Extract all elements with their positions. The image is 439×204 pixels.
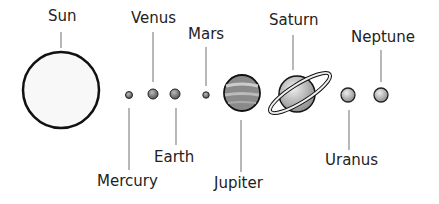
solar-system-diagram: Sun Mercury Venus Earth Mars Jupiter Sat…: [0, 0, 439, 204]
saturn-shape: [266, 67, 335, 119]
mercury-shape: [126, 92, 133, 99]
label-uranus: Uranus: [325, 153, 378, 168]
mars-shape: [203, 92, 209, 98]
venus-shape: [148, 89, 158, 99]
label-jupiter: Jupiter: [214, 176, 263, 191]
earth-shape: [170, 89, 180, 99]
label-earth: Earth: [154, 150, 194, 165]
label-sun: Sun: [48, 9, 77, 24]
sun-shape: [23, 52, 99, 128]
label-saturn: Saturn: [269, 13, 319, 28]
label-mercury: Mercury: [97, 174, 158, 189]
jupiter-shape: [224, 75, 260, 111]
neptune-shape: [374, 88, 388, 102]
label-mars: Mars: [188, 27, 224, 42]
label-venus: Venus: [131, 11, 176, 26]
uranus-shape: [341, 88, 355, 102]
label-neptune: Neptune: [351, 30, 415, 45]
